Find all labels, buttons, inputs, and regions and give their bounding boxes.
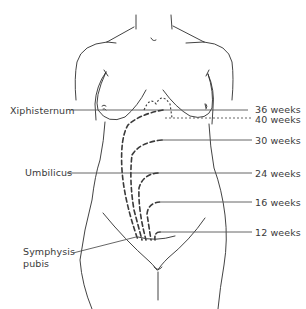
label-30-weeks: 30 weeks xyxy=(255,135,301,146)
nipple-right xyxy=(205,104,207,109)
neck-right xyxy=(171,15,172,29)
label-12-weeks: 12 weeks xyxy=(255,227,301,238)
label-symphysis-line1: Symphysis xyxy=(23,246,75,257)
breast-right xyxy=(163,74,213,117)
shoulder-right-line xyxy=(173,26,204,42)
clavicle-left xyxy=(107,42,116,43)
label-16-weeks: 16 weeks xyxy=(255,197,301,208)
curve-36-weeks xyxy=(122,110,163,240)
torso-left xyxy=(80,122,105,309)
shoulder-left-line xyxy=(107,27,134,42)
fundal-height-diagram: Xiphisternum Umbilicus Symphysis pubis 3… xyxy=(0,0,306,309)
symphysis-arc xyxy=(138,236,175,239)
label-symphysis-line2: pubis xyxy=(23,258,49,269)
curve-24-weeks xyxy=(139,173,158,240)
label-40-weeks: 40 weeks xyxy=(255,114,301,125)
clavicle-right xyxy=(186,42,204,43)
curve-40-weeks xyxy=(144,98,172,118)
label-umbilicus: Umbilicus xyxy=(25,167,72,178)
curve-30-weeks xyxy=(131,140,162,240)
label-xiphisternum: Xiphisternum xyxy=(10,105,75,116)
arm-left-outer xyxy=(75,42,107,100)
torso-right xyxy=(209,124,226,309)
label-24-weeks: 24 weeks xyxy=(255,168,301,179)
curve-16-weeks xyxy=(147,202,160,240)
groin-right xyxy=(158,218,205,270)
nipple-left xyxy=(102,105,106,110)
sternal-notch xyxy=(151,38,156,41)
breast-left xyxy=(97,72,146,120)
